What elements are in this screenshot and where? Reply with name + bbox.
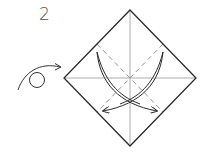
origami-diagram (0, 0, 212, 156)
turn-over-icon (18, 64, 61, 91)
